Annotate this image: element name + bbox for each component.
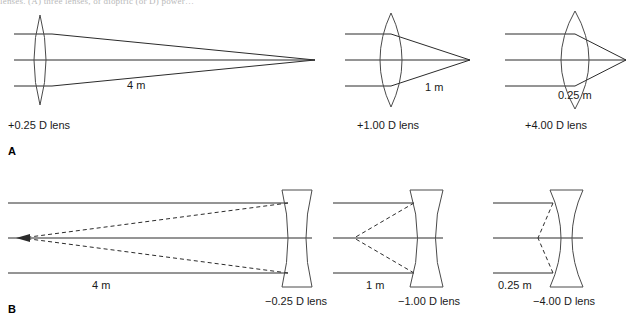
lens-label-minus-4-00d: −4.00 D lens bbox=[533, 295, 596, 307]
refracted-ray-bottom bbox=[575, 60, 626, 86]
virtual-ray-top bbox=[22, 203, 288, 238]
lens-label-minus-0-25d: −0.25 D lens bbox=[265, 295, 328, 307]
lens-label-plus-1-00d: +1.00 D lens bbox=[357, 119, 420, 131]
panel-b-group-2: 1 m −1.00 D lens bbox=[333, 190, 461, 307]
panel-a-group-1: 4 m +0.25 D lens bbox=[8, 15, 315, 131]
optics-figure: lenses. (A) three lenses, of dioptric (o… bbox=[0, 0, 633, 316]
virtual-ray-bottom bbox=[22, 238, 288, 273]
virtual-ray-bottom bbox=[538, 238, 553, 273]
panel-letter-a: A bbox=[8, 145, 16, 157]
panel-b-group-3: 0.25 m −4.00 D lens bbox=[493, 190, 596, 307]
panel-b-diverging: 4 m −0.25 D lens 1 m −1.00 D lens bbox=[8, 190, 596, 315]
virtual-ray-bottom bbox=[354, 238, 414, 273]
refracted-ray-top bbox=[52, 34, 315, 60]
panel-a-group-3: 0.25 m +4.00 D lens bbox=[505, 11, 626, 131]
refracted-ray-top bbox=[575, 34, 626, 60]
virtual-focus-arrowhead bbox=[16, 234, 30, 242]
distance-label-1m: 1 m bbox=[366, 279, 384, 291]
panel-letter-b: B bbox=[8, 303, 16, 315]
distance-label-4m: 4 m bbox=[92, 279, 110, 291]
distance-label-0-25m: 0.25 m bbox=[558, 89, 592, 101]
panel-a-group-2: 1 m +1.00 D lens bbox=[345, 13, 470, 131]
refracted-ray-top bbox=[391, 34, 470, 60]
lens-label-plus-4-00d: +4.00 D lens bbox=[525, 119, 588, 131]
virtual-ray-top bbox=[354, 203, 414, 238]
figure-canvas: 4 m +0.25 D lens 1 m +1.00 D lens bbox=[0, 0, 633, 316]
distance-label-4m: 4 m bbox=[127, 79, 145, 91]
refracted-ray-bottom bbox=[52, 60, 315, 86]
lens-label-plus-0-25d: +0.25 D lens bbox=[8, 119, 71, 131]
distance-label-1m: 1 m bbox=[425, 81, 443, 93]
panel-a-converging: 4 m +0.25 D lens 1 m +1.00 D lens bbox=[8, 11, 626, 157]
lens-label-minus-1-00d: −1.00 D lens bbox=[398, 295, 461, 307]
virtual-ray-top bbox=[538, 203, 553, 238]
panel-b-group-1: 4 m −0.25 D lens bbox=[8, 190, 328, 307]
distance-label-0-25m: 0.25 m bbox=[498, 279, 532, 291]
